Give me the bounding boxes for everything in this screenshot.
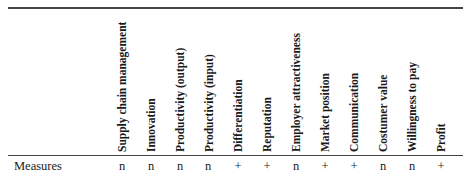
column-header: Supply chain management (116, 12, 130, 152)
column-header: Employer attractiveness (290, 12, 304, 152)
column-header-label: Costumer value (377, 75, 389, 152)
column-header-label: Differentiation (232, 79, 244, 152)
column-header: Differentiation (232, 12, 246, 152)
table-cell: + (257, 159, 277, 174)
column-header-label: Productivity (output) (174, 48, 186, 152)
header-rule (8, 155, 463, 156)
column-header-label: Innovation (145, 98, 157, 152)
column-header: Productivity (output) (174, 12, 188, 152)
column-header: Productivity (input) (203, 12, 217, 152)
table-cell: n (170, 159, 190, 174)
row-label: Measures (14, 159, 62, 174)
column-header-label: Employer attractiveness (290, 33, 302, 152)
column-header: Willingness to pay (406, 12, 420, 152)
column-header-label: Profit (435, 123, 447, 152)
table-cell: n (198, 159, 218, 174)
table-cell: + (344, 159, 364, 174)
table-cell: n (112, 159, 132, 174)
column-header: Profit (435, 12, 449, 152)
column-header: Reputation (261, 12, 275, 152)
table-cell: + (431, 159, 451, 174)
table-cell: n (141, 159, 161, 174)
column-header-label: Supply chain management (116, 22, 128, 152)
table-cell: + (315, 159, 335, 174)
column-header: Communication (348, 12, 362, 152)
column-header-label: Productivity (input) (203, 54, 215, 152)
column-header-label: Willingness to pay (406, 62, 418, 152)
column-header-label: Communication (348, 73, 360, 152)
column-header-label: Reputation (261, 97, 273, 152)
column-header-label: Market position (319, 73, 331, 152)
table-cell: n (402, 159, 422, 174)
table-cell: + (228, 159, 248, 174)
column-header: Costumer value (377, 12, 391, 152)
column-header: Innovation (145, 12, 159, 152)
column-header: Market position (319, 12, 333, 152)
table-cell: n (373, 159, 393, 174)
table-cell: n (286, 159, 306, 174)
top-rule (8, 7, 463, 9)
